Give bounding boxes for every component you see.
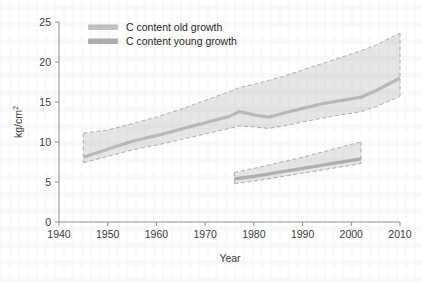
legend-item-old-growth: C content old growth (88, 21, 222, 33)
series-layer (83, 33, 400, 183)
legend-swatch-old-growth (88, 25, 118, 31)
y-axis-title: kg/cm2 (11, 106, 24, 138)
y-tick-label: 20 (39, 56, 51, 68)
x-tick-label: 1970 (193, 228, 217, 240)
y-tick-label: 0 (45, 216, 51, 228)
legend-swatch-young-growth (88, 39, 118, 45)
series-young-growth (234, 142, 361, 184)
x-tick-label: 1940 (47, 228, 71, 240)
series-old-growth (83, 33, 400, 163)
chart-plot: 0510152025 19401950196019701980199020002… (0, 0, 422, 282)
x-tick-label: 1990 (291, 228, 315, 240)
x-tick-label: 1980 (242, 228, 266, 240)
x-axis-ticks: 19401950196019701980199020002010 (47, 222, 412, 240)
legend-label-young-growth: C content young growth (126, 35, 237, 47)
x-tick-label: 2010 (388, 228, 412, 240)
x-axis-title: Year (219, 252, 241, 264)
x-tick-label: 1960 (145, 228, 169, 240)
y-axis-title-superscript: 2 (11, 106, 20, 110)
legend-label-old-growth: C content old growth (126, 21, 222, 33)
legend-item-young-growth: C content young growth (88, 35, 237, 47)
chart-container: 0510152025 19401950196019701980199020002… (0, 0, 422, 282)
y-tick-label: 15 (39, 96, 51, 108)
y-tick-label: 5 (45, 176, 51, 188)
chart-legend: C content old growth C content young gro… (88, 21, 237, 47)
x-tick-label: 1950 (96, 228, 120, 240)
y-tick-label: 10 (39, 136, 51, 148)
y-axis-ticks: 0510152025 (39, 16, 59, 228)
svg-text:kg/cm2: kg/cm2 (11, 106, 24, 138)
y-tick-label: 25 (39, 16, 51, 28)
y-axis-title-text: kg/cm (12, 110, 24, 138)
x-tick-label: 2000 (340, 228, 364, 240)
